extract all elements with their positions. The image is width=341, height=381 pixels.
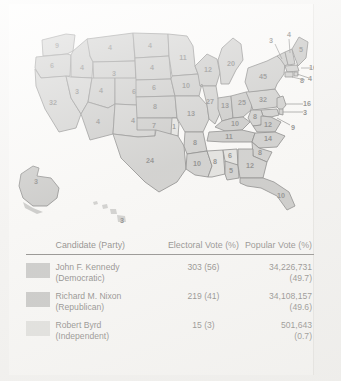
ev-label-or: 6 bbox=[50, 61, 54, 70]
candidate-name: Richard M. Nixon bbox=[55, 291, 162, 302]
popular-count: 34,226,731 bbox=[245, 262, 312, 273]
table-row: Robert Byrd (Independent) 15 (3) 501,643… bbox=[26, 313, 314, 342]
electoral-cell: 219 (41) bbox=[162, 284, 245, 313]
ev-label-ri: 4 bbox=[308, 74, 312, 83]
ev-label-wy: 3 bbox=[112, 69, 116, 78]
ev-label-mi: 20 bbox=[227, 59, 235, 68]
ev-label-fl: 10 bbox=[277, 191, 285, 200]
electoral-cell: 15 (3) bbox=[162, 313, 245, 342]
header-swatch-spacer bbox=[26, 240, 55, 255]
ev-label-ny: 45 bbox=[259, 72, 267, 81]
electoral-map: 9 6 32 4 3 4 3 4 4 6 4 4 4 6 8 7 1 24 11… bbox=[9, 6, 314, 234]
table-body: John F. Kennedy (Democratic) 303 (56) 34… bbox=[26, 255, 314, 343]
popular-cell: 34,226,731 (49.7) bbox=[245, 255, 314, 285]
candidate-party: (Republican) bbox=[55, 302, 162, 313]
ev-label-nv: 3 bbox=[75, 87, 79, 96]
ev-label-oh: 25 bbox=[238, 98, 246, 107]
ev-label-wv: 8 bbox=[253, 112, 257, 121]
popular-cell: 501,643 (0.7) bbox=[245, 313, 314, 342]
ev-label-sd: 4 bbox=[150, 63, 154, 72]
state-ak bbox=[19, 166, 59, 206]
ev-label-mn: 11 bbox=[179, 53, 187, 62]
ev-label-sc: 8 bbox=[258, 148, 262, 157]
ev-label-ms: 8 bbox=[213, 157, 217, 166]
ev-label-ne: 6 bbox=[152, 83, 156, 92]
ev-label-ok-unpledged: 1 bbox=[172, 123, 176, 130]
ev-label-az: 4 bbox=[96, 117, 100, 126]
table-row: John F. Kennedy (Democratic) 303 (56) 34… bbox=[26, 255, 314, 285]
ev-label-md: 9 bbox=[291, 123, 295, 132]
header-candidate: Candidate (Party) bbox=[55, 240, 162, 255]
candidate-party: (Independent) bbox=[55, 331, 162, 342]
ev-label-ct: 8 bbox=[300, 76, 304, 85]
ev-label-nc: 14 bbox=[264, 134, 272, 143]
popular-percent: (49.7) bbox=[245, 273, 312, 284]
candidate-name: John F. Kennedy bbox=[55, 262, 162, 273]
state-md bbox=[261, 109, 279, 117]
ev-label-ok: 7 bbox=[152, 121, 156, 130]
ev-label-ut: 4 bbox=[99, 86, 103, 95]
ev-label-va: 12 bbox=[264, 120, 272, 129]
ev-label-mo: 13 bbox=[187, 109, 195, 118]
table-header-row: Candidate (Party) Electoral Vote (%) Pop… bbox=[26, 240, 314, 255]
table-head: Candidate (Party) Electoral Vote (%) Pop… bbox=[26, 240, 314, 255]
ev-label-de: 3 bbox=[303, 108, 307, 117]
candidate-cell: John F. Kennedy (Democratic) bbox=[55, 255, 162, 285]
ev-label-me: 5 bbox=[299, 45, 303, 54]
ev-label-in: 13 bbox=[221, 101, 229, 110]
candidate-cell: Robert Byrd (Independent) bbox=[55, 313, 162, 342]
header-popular: Popular Vote (%) bbox=[245, 240, 314, 255]
ev-label-la: 10 bbox=[193, 159, 201, 168]
candidate-name: Robert Byrd bbox=[55, 320, 162, 331]
ev-label-mt: 4 bbox=[108, 43, 112, 52]
results-table-container: Candidate (Party) Electoral Vote (%) Pop… bbox=[26, 240, 314, 372]
ev-label-wa: 9 bbox=[55, 41, 59, 50]
kennedy-swatch bbox=[26, 263, 50, 278]
swatch-cell bbox=[26, 284, 55, 313]
popular-percent: (0.7) bbox=[245, 331, 312, 342]
ev-label-ga: 12 bbox=[246, 161, 254, 170]
ev-label-hi: 3 bbox=[120, 216, 124, 225]
ev-label-tn: 11 bbox=[225, 132, 233, 141]
state-hi-2 bbox=[102, 204, 108, 209]
nixon-swatch bbox=[26, 292, 50, 307]
electoral-cell: 303 (56) bbox=[162, 255, 245, 285]
ev-label-ak: 3 bbox=[34, 177, 38, 186]
ev-label-co: 6 bbox=[132, 87, 136, 96]
ev-label-ma: 16 bbox=[309, 63, 314, 72]
election-figure: 9 6 32 4 3 4 3 4 4 6 4 4 4 6 8 7 1 24 11… bbox=[0, 0, 341, 381]
ev-label-ar: 8 bbox=[193, 138, 197, 147]
map-svg: 9 6 32 4 3 4 3 4 4 6 4 4 4 6 8 7 1 24 11… bbox=[9, 6, 314, 234]
state-fl bbox=[240, 178, 295, 210]
state-de bbox=[279, 109, 283, 115]
ev-label-al-byrd: 6 bbox=[228, 151, 232, 160]
state-hi-1 bbox=[93, 201, 98, 205]
popular-count: 501,643 bbox=[245, 320, 312, 331]
ev-label-ky: 10 bbox=[231, 119, 239, 128]
popular-percent: (49.6) bbox=[245, 302, 312, 313]
ev-label-wi: 12 bbox=[204, 65, 212, 74]
ev-label-ks: 8 bbox=[153, 102, 157, 111]
candidate-party: (Democratic) bbox=[55, 273, 162, 284]
state-ct bbox=[285, 72, 293, 77]
ev-label-nm: 4 bbox=[131, 116, 135, 125]
swatch-cell bbox=[26, 313, 55, 342]
ev-label-ia: 10 bbox=[182, 81, 190, 90]
candidate-cell: Richard M. Nixon (Republican) bbox=[55, 284, 162, 313]
state-ma bbox=[285, 65, 299, 72]
ev-label-pa: 32 bbox=[259, 95, 267, 104]
ev-label-id: 4 bbox=[80, 63, 84, 72]
byrd-swatch bbox=[26, 321, 50, 336]
ev-label-nj: 16 bbox=[303, 99, 311, 108]
popular-count: 34,108,157 bbox=[245, 291, 312, 302]
ev-label-tx: 24 bbox=[146, 156, 154, 165]
popular-cell: 34,108,157 (49.6) bbox=[245, 284, 314, 313]
ev-label-ca: 32 bbox=[49, 98, 57, 107]
table-row: Richard M. Nixon (Republican) 219 (41) 3… bbox=[26, 284, 314, 313]
ev-label-vt: 3 bbox=[269, 36, 273, 45]
ev-label-nh: 4 bbox=[287, 30, 291, 39]
header-electoral: Electoral Vote (%) bbox=[162, 240, 245, 255]
ev-label-il: 27 bbox=[206, 97, 214, 106]
ev-label-nd: 4 bbox=[148, 41, 152, 50]
swatch-cell bbox=[26, 255, 55, 285]
